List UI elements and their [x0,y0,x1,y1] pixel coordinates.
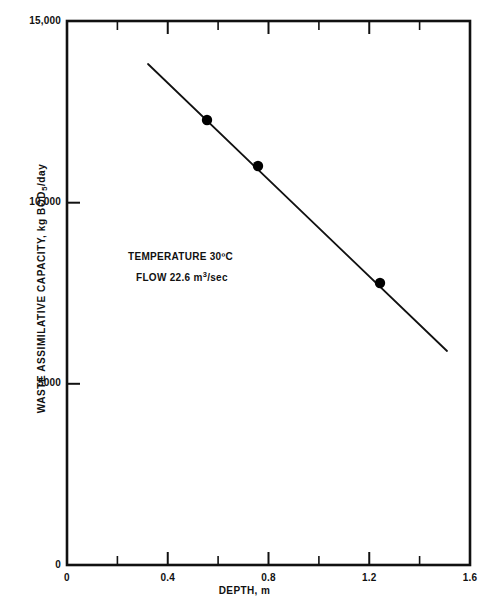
data-point [375,278,385,288]
data-point [202,115,212,125]
annotation-flow: FLOW 22.6 m3/sec [128,266,233,287]
chart-plot-area [0,0,489,603]
y-axis-label-subscript: 5 [40,186,49,191]
y-axis-label-pre: WASTE ASSIMILATIVE CAPACITY, kg BOD [36,191,47,414]
y-axis-label: WASTE ASSIMILATIVE CAPACITY, kg BOD5/day [36,139,49,439]
y-axis-label-post: /day [36,164,47,186]
x-tick-label-0-8: 0.8 [249,572,289,583]
x-axis-label: DEPTH, m [0,585,489,596]
x-tick-label-1-6: 1.6 [450,572,489,583]
trend-line [148,64,447,351]
y-tick-label-10000: 10,000 [0,196,61,207]
y-tick-label-15000: 15,000 [0,15,61,26]
y-tick-label-0: 0 [0,559,61,570]
plot-annotation: TEMPERATURE 30ºC FLOW 22.6 m3/sec [128,248,233,287]
x-major-ticks-top [168,21,370,34]
plot-frame [67,21,470,565]
x-tick-label-1-2: 1.2 [349,572,389,583]
annotation-temperature: TEMPERATURE 30ºC [128,248,233,266]
x-tick-label-0-4: 0.4 [148,572,188,583]
chart-figure: 15,000 10,000 5000 0 0 0.4 0.8 1.2 1.6 D… [0,0,489,603]
x-major-ticks-bottom [168,552,370,565]
y-major-ticks [67,203,80,384]
data-point [253,161,263,171]
x-tick-label-0: 0 [47,572,87,583]
annotation-flow-pre: FLOW 22.6 m [136,272,203,283]
y-tick-label-5000: 5000 [0,377,61,388]
annotation-flow-post: /sec [207,272,228,283]
